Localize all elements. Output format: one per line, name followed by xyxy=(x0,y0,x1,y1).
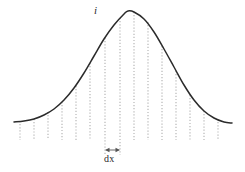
dx-arrowhead-left xyxy=(105,148,110,152)
dx-width-arrow xyxy=(105,148,120,152)
bell-curve-figure: i dx xyxy=(0,0,245,172)
bell-curve-path xyxy=(14,11,232,123)
dx-arrowhead-right xyxy=(116,148,121,152)
peak-height-label: i xyxy=(94,5,97,16)
strip-width-label: dx xyxy=(104,154,114,164)
bell-curve-diagram xyxy=(0,0,245,172)
ordinate-dotted-lines-group xyxy=(20,12,218,155)
